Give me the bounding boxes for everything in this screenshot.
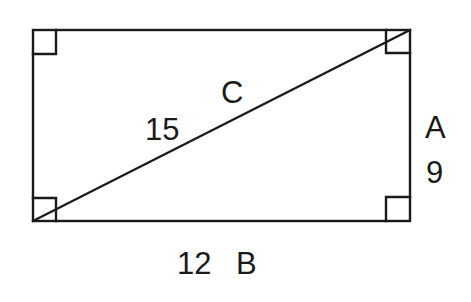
diagonal-line — [33, 30, 410, 221]
right-angle-marker-bottom-left — [33, 198, 56, 221]
diagonal-letter-label: C — [221, 75, 243, 110]
horizontal-value-label: 12 — [177, 246, 211, 281]
vertical-value-label: 9 — [426, 155, 443, 190]
right-angle-marker-top-left — [33, 30, 56, 54]
horizontal-letter-label: B — [236, 246, 257, 281]
right-angle-marker-bottom-right — [386, 197, 410, 221]
diagonal-value-label: 15 — [145, 112, 179, 147]
rectangle-diagram: C 15 A 9 12 B — [0, 0, 471, 302]
vertical-letter-label: A — [425, 110, 446, 145]
